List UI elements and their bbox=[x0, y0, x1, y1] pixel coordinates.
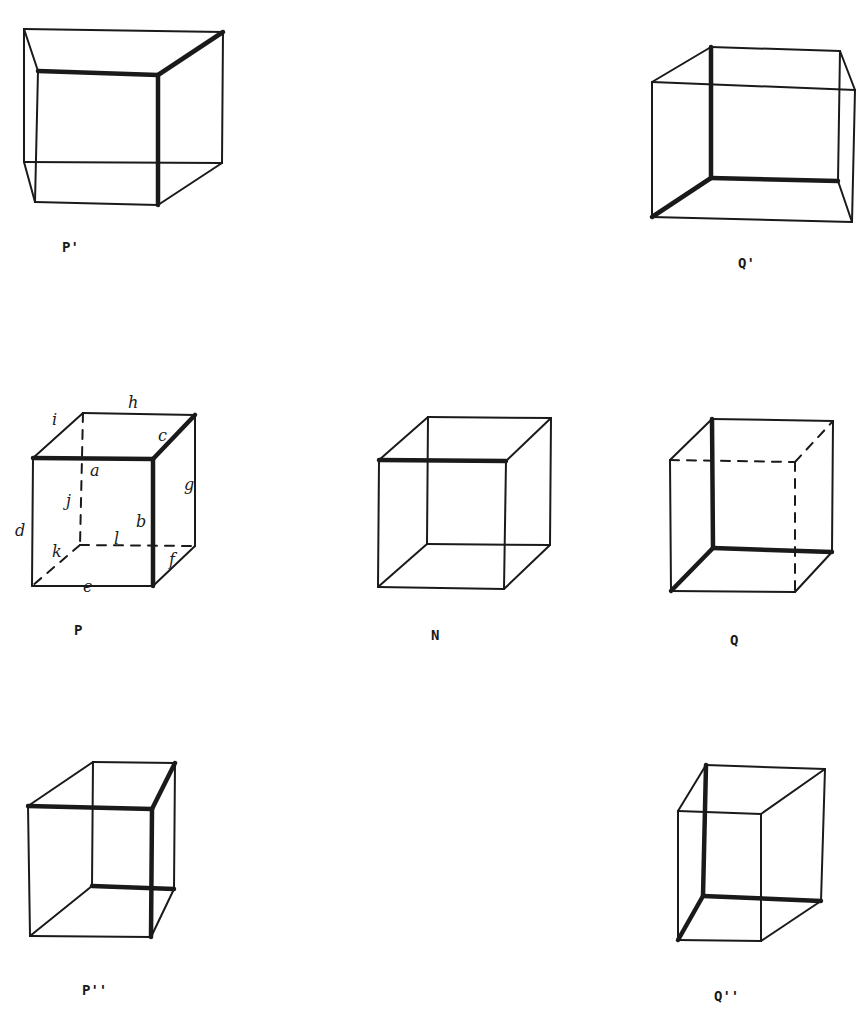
cube-edge-thin bbox=[35, 202, 158, 205]
edge-label: l bbox=[114, 529, 119, 548]
edge-label: f bbox=[168, 550, 178, 569]
cube-edge-thin bbox=[838, 51, 840, 181]
cube-caption: Q'' bbox=[714, 988, 739, 1004]
cube-edge-thin bbox=[832, 421, 833, 552]
cube-caption: P'' bbox=[82, 982, 107, 998]
cube-edge-thin bbox=[652, 217, 852, 222]
cube-edge-bold bbox=[158, 32, 223, 75]
cube-Q: Q bbox=[670, 419, 833, 648]
cube-edge-thin bbox=[24, 29, 38, 71]
cube-caption: N bbox=[431, 627, 439, 643]
cube-edge-thin bbox=[28, 762, 93, 806]
cube-edge-thin bbox=[840, 51, 855, 90]
cube-P-double-prime: P'' bbox=[28, 762, 175, 998]
cube-edge-thin bbox=[838, 181, 852, 222]
cube-edge-thin bbox=[24, 29, 223, 32]
edge-label: g bbox=[184, 475, 194, 494]
edge-label: j bbox=[63, 491, 71, 510]
cube-edge-thin bbox=[92, 762, 93, 886]
cube-P: abcdefghijklP bbox=[15, 393, 195, 638]
cube-edge-bold bbox=[379, 460, 506, 461]
cube-edge-thin bbox=[711, 47, 840, 51]
cube-edge-thin bbox=[24, 162, 222, 163]
cube-edge-thin bbox=[32, 458, 33, 586]
cube-edge-thin bbox=[821, 769, 825, 901]
cube-edge-bold bbox=[703, 765, 706, 896]
cube-edge-thin bbox=[550, 418, 551, 545]
cube-edge-thin bbox=[712, 419, 833, 421]
cube-edge-thin bbox=[761, 769, 825, 814]
cube-edge-thin bbox=[504, 461, 506, 589]
cube-edge-thin bbox=[151, 889, 174, 937]
edge-label: h bbox=[128, 393, 138, 412]
cube-edge-bold bbox=[703, 896, 821, 901]
cube-edge-bold bbox=[151, 809, 152, 937]
cube-edge-thin bbox=[378, 544, 427, 587]
cube-edge-hidden bbox=[670, 460, 795, 462]
cube-Q-prime: Q' bbox=[652, 47, 855, 271]
edge-label: k bbox=[52, 542, 62, 561]
cube-edge-bold bbox=[38, 71, 158, 75]
edge-label: i bbox=[52, 410, 57, 429]
cube-caption: P bbox=[74, 622, 82, 638]
cube-edge-thin bbox=[174, 763, 175, 889]
cube-edge-thin bbox=[222, 32, 223, 163]
cube-edge-thin bbox=[24, 162, 35, 202]
cube-P-prime: P' bbox=[24, 29, 223, 255]
cube-edge-thin bbox=[30, 886, 92, 936]
cube-caption: Q' bbox=[738, 255, 755, 271]
cube-edge-thin bbox=[671, 591, 795, 592]
cube-edge-hidden bbox=[795, 421, 833, 462]
cube-edge-thin bbox=[427, 417, 428, 544]
necker-cube-figure: P'Q'abcdefghijklPNQP''Q'' bbox=[0, 0, 857, 1031]
edge-label: c bbox=[158, 426, 167, 445]
cube-edge-thin bbox=[158, 163, 222, 205]
edge-label: d bbox=[15, 521, 25, 540]
cube-edge-thin bbox=[428, 417, 551, 418]
cube-edge-hidden bbox=[80, 545, 195, 546]
cube-edge-thin bbox=[378, 587, 504, 589]
cube-edge-thin bbox=[427, 544, 550, 545]
cube-edge-bold bbox=[712, 419, 713, 548]
cube-edge-thin bbox=[795, 552, 832, 592]
cube-edge-thin bbox=[506, 418, 551, 461]
cube-edge-thin bbox=[670, 419, 712, 460]
cube-edge-thin bbox=[652, 47, 711, 82]
cube-edge-bold bbox=[678, 896, 703, 940]
cube-Q-double-prime: Q'' bbox=[678, 765, 825, 1004]
cube-edge-bold bbox=[671, 548, 713, 591]
cube-edge-bold bbox=[152, 763, 175, 809]
cube-edge-bold bbox=[652, 178, 711, 217]
cube-edge-bold bbox=[28, 806, 152, 809]
edge-label: a bbox=[90, 461, 100, 480]
cube-edge-thin bbox=[378, 460, 379, 587]
cube-edge-thin bbox=[379, 417, 428, 460]
edge-label: b bbox=[136, 512, 146, 531]
cube-edge-thin bbox=[30, 936, 151, 937]
cube-edge-thin bbox=[678, 940, 761, 941]
cube-edge-thin bbox=[28, 806, 30, 936]
cube-edge-thin bbox=[35, 71, 38, 202]
cube-edge-thin bbox=[504, 545, 550, 589]
cube-caption: Q bbox=[730, 632, 738, 648]
cube-edge-bold bbox=[713, 548, 832, 552]
cube-edge-bold bbox=[92, 886, 174, 889]
cube-edge-thin bbox=[678, 811, 761, 814]
edge-label: e bbox=[83, 577, 92, 596]
cube-edge-thin bbox=[761, 901, 821, 941]
cube-caption: P' bbox=[62, 239, 79, 255]
cube-edge-bold bbox=[711, 178, 838, 181]
cube-edge-thin bbox=[678, 765, 706, 811]
cube-N: N bbox=[378, 417, 551, 643]
cube-edge-thin bbox=[33, 413, 83, 458]
cube-edge-thin bbox=[652, 82, 855, 90]
cube-edge-thin bbox=[670, 460, 671, 591]
cube-edge-thin bbox=[852, 90, 855, 222]
cube-edge-thin bbox=[83, 413, 195, 415]
cube-edge-thin bbox=[706, 765, 825, 769]
cube-edge-hidden bbox=[80, 413, 83, 545]
cube-edge-thin bbox=[93, 762, 175, 763]
cube-edge-bold bbox=[33, 458, 153, 459]
